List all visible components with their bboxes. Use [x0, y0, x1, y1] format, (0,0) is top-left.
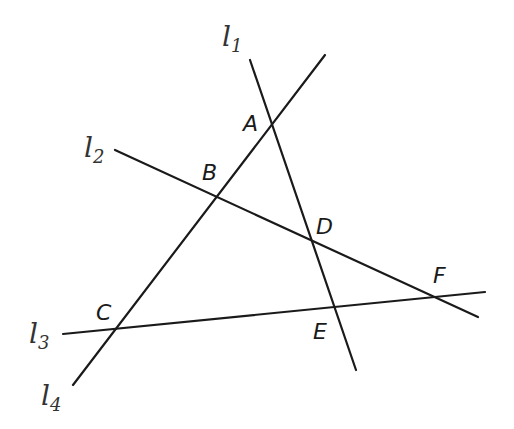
- line-l1: [250, 60, 356, 370]
- point-label-b: B: [202, 160, 217, 185]
- line-label-l2: l2: [84, 131, 104, 167]
- lines-group: [63, 55, 485, 385]
- point-label-e: E: [313, 319, 327, 344]
- point-label-a: A: [241, 111, 258, 136]
- line-labels-group: l1 l2 l3 l4: [29, 20, 242, 415]
- point-label-d: D: [316, 214, 333, 239]
- line-label-l4: l4: [41, 379, 61, 415]
- point-label-c: C: [96, 300, 112, 325]
- line-l3: [63, 292, 485, 334]
- geometry-diagram: l1 l2 l3 l4 A B C D E F: [0, 0, 514, 429]
- line-l2: [115, 150, 478, 317]
- line-l4: [73, 55, 325, 385]
- line-label-l1: l1: [222, 20, 242, 56]
- point-label-f: F: [433, 263, 446, 288]
- point-labels-group: A B C D E F: [96, 111, 446, 344]
- line-label-l3: l3: [29, 317, 49, 353]
